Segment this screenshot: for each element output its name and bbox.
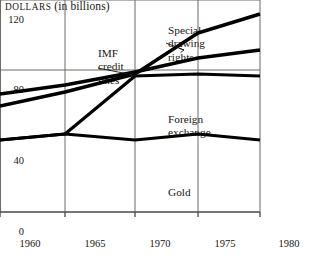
chart-figure: DOLLARS (in billions) 120 80 40 0 1960 1… xyxy=(0,0,311,264)
axis-lines xyxy=(0,0,260,212)
series-line-special-drawing-rights xyxy=(0,14,260,106)
plot-canvas xyxy=(0,0,281,244)
vertical-gridlines xyxy=(65,0,260,212)
horizontal-gridlines xyxy=(0,0,260,70)
series-line-imf-credit-lines xyxy=(0,50,260,94)
series-line-gold xyxy=(0,134,260,140)
leader-arrowhead-special-drawing-rights xyxy=(179,48,184,52)
series-line-foreign-exchange xyxy=(0,74,260,140)
